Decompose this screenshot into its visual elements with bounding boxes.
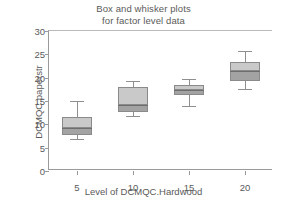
median-line: [174, 90, 204, 91]
cap-lower: [238, 89, 252, 90]
y-tick-25: [45, 54, 49, 55]
y-tick-label-5: 5: [40, 142, 45, 153]
median-line: [230, 71, 260, 72]
box-lower-quartile: [118, 105, 148, 112]
y-tick-5: [45, 148, 49, 149]
cap-upper: [126, 81, 140, 82]
box-upper-quartile: [62, 117, 92, 128]
y-tick-label-15: 15: [34, 96, 45, 107]
y-tick-label-30: 30: [34, 26, 45, 37]
x-tick-15: [189, 171, 190, 175]
cap-upper: [70, 101, 84, 102]
y-tick-15: [45, 101, 49, 102]
box-whisker-chart: Box and whisker plots for factor level d…: [0, 0, 287, 204]
cap-upper: [238, 51, 252, 52]
y-tick-label-10: 10: [34, 119, 45, 130]
whisker-upper: [77, 101, 78, 117]
box-plot-level-10: [118, 31, 148, 169]
whisker-lower: [245, 81, 246, 89]
cap-lower: [126, 116, 140, 117]
chart-title: Box and whisker plots for factor level d…: [0, 3, 287, 27]
plot-area: 051015202530 5101520: [48, 30, 272, 170]
y-tick-10: [45, 124, 49, 125]
y-tick-30: [45, 31, 49, 32]
whisker-upper: [245, 51, 246, 62]
box-upper-quartile: [230, 62, 260, 71]
y-tick-0: [45, 171, 49, 172]
x-tick-20: [245, 171, 246, 175]
box-lower-quartile: [230, 71, 260, 81]
box-plot-level-5: [62, 31, 92, 169]
box-upper-quartile: [118, 87, 148, 105]
y-tick-label-25: 25: [34, 49, 45, 60]
median-line: [118, 105, 148, 106]
box-plot-level-20: [230, 31, 260, 169]
chart-title-line-1: Box and whisker plots: [0, 3, 287, 15]
median-line: [62, 128, 92, 129]
cap-lower: [70, 139, 84, 140]
box-lower-quartile: [62, 128, 92, 135]
whisker-lower: [189, 95, 190, 106]
x-tick-10: [133, 171, 134, 175]
cap-upper: [182, 79, 196, 80]
x-tick-5: [77, 171, 78, 175]
x-axis-title: Level of DCMQC.Hardwood: [0, 186, 287, 197]
box-plot-level-15: [174, 31, 204, 169]
y-tick-label-0: 0: [40, 166, 45, 177]
cap-lower: [182, 106, 196, 107]
y-tick-label-20: 20: [34, 72, 45, 83]
y-tick-20: [45, 78, 49, 79]
